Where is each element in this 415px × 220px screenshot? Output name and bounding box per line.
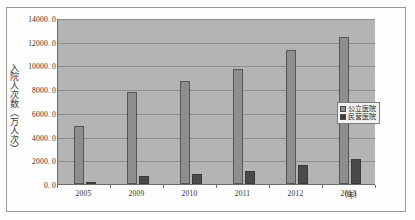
bar-group (217, 19, 270, 184)
y-tick-label: 8000. 0 (20, 86, 56, 95)
x-tick-mark (375, 185, 376, 188)
y-tick-label: 6000. 0 (20, 109, 56, 118)
bar-group (58, 19, 111, 184)
x-tick-mark (110, 185, 111, 188)
x-tick-label: 2005 (76, 189, 92, 198)
x-tick-mark (216, 185, 217, 188)
legend-swatch-icon (340, 106, 346, 112)
x-tick-mark (163, 185, 164, 188)
legend-item-2[interactable]: 民营医院 (340, 113, 376, 121)
y-tick-label: 12000. 0 (20, 38, 56, 47)
y-tick-label: 4000. 0 (20, 133, 56, 142)
y-tick-label: 2000. 0 (20, 157, 56, 166)
legend-swatch-icon (340, 114, 346, 120)
bar-private-2005 (86, 182, 96, 184)
x-tick-label: 2009 (129, 189, 145, 198)
bar-public-2011 (233, 69, 243, 184)
x-tick-label: 2011 (235, 189, 251, 198)
bar-group (270, 19, 323, 184)
x-tick-mark (322, 185, 323, 188)
x-axis-tick-labels: 200520092010201120122013 (57, 189, 375, 203)
chart-legend: 公立医院民营医院 (337, 102, 380, 124)
bar-private-2009 (139, 176, 149, 184)
legend-item-1[interactable]: 公立医院 (340, 105, 376, 113)
y-tick-label: 10000. 0 (20, 62, 56, 71)
x-tick-mark (269, 185, 270, 188)
legend-item-label: 公立医院 (348, 105, 376, 113)
chart-page: · · · · ·· · ·· · 入院人次数（万人次） 14000. 0120… (0, 0, 415, 220)
bar-public-2009 (127, 92, 137, 184)
x-tick-mark (57, 185, 58, 188)
x-axis-unit-label: （年） (340, 189, 361, 200)
bar-public-2005 (74, 126, 84, 184)
bar-private-2011 (245, 171, 255, 184)
plot-area (57, 19, 375, 185)
bar-private-2010 (192, 174, 202, 184)
x-tick-label: 2010 (182, 189, 198, 198)
bar-private-2013 (351, 159, 361, 184)
legend-item-label: 民营医院 (348, 113, 376, 121)
bar-public-2010 (180, 81, 190, 184)
bar-private-2012 (298, 165, 308, 184)
bar-public-2012 (286, 50, 296, 184)
bars-layer (58, 19, 375, 184)
y-tick-label: 0. 0 (20, 181, 56, 190)
bar-group (164, 19, 217, 184)
x-tick-label: 2012 (288, 189, 304, 198)
y-axis-tick-labels: 14000. 012000. 010000. 08000. 06000. 040… (20, 19, 56, 185)
y-tick-label: 14000. 0 (20, 15, 56, 24)
bar-group (111, 19, 164, 184)
top-cutoff-text: · · · · ·· · ·· · (6, 0, 306, 6)
